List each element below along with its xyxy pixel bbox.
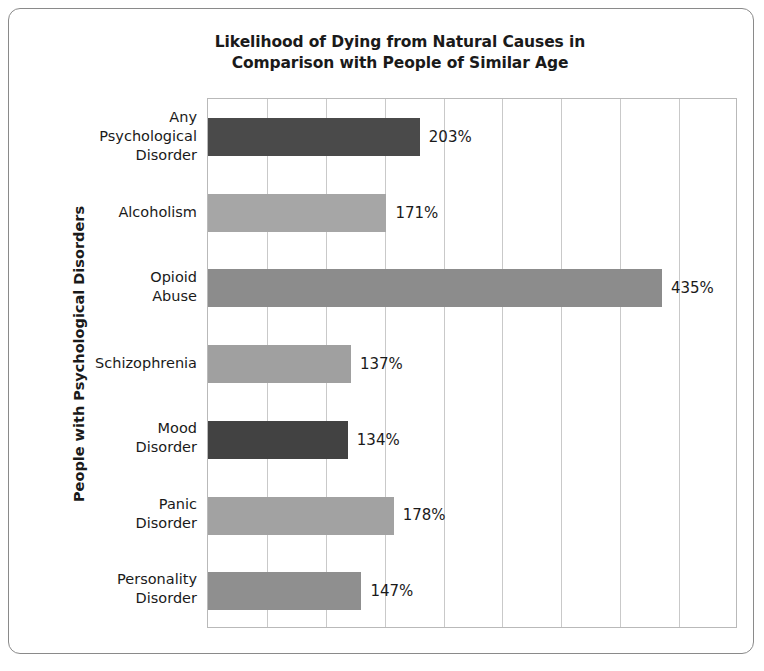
label-line: Abuse [42,287,197,306]
chart-title-line-2: Comparison with People of Similar Age [120,53,680,74]
label-line: Opioid [42,268,197,287]
y-tick-label-schizophrenia: Schizophrenia [42,354,197,373]
bar-panic-disorder [208,497,394,535]
chart-title-line-1: Likelihood of Dying from Natural Causes … [120,32,680,53]
plot-area: 203% 171% 435% 137% 134% 178% 147% [207,98,737,628]
label-line: Mood [42,419,197,438]
y-tick-label-any-psychological-disorder: Any Psychological Disorder [42,108,197,165]
y-tick-label-alcoholism: Alcoholism [42,203,197,222]
label-line: Disorder [42,589,197,608]
label-line: Any [42,108,197,127]
bar-row: 137% [208,326,736,402]
label-line: Alcoholism [42,203,197,222]
bar-row: 203% [208,99,736,175]
bar-value-mood-disorder: 134% [348,431,400,449]
y-tick-label-mood-disorder: Mood Disorder [42,419,197,457]
label-line: Disorder [42,145,197,164]
bar-value-schizophrenia: 137% [351,355,403,373]
label-line: Panic [42,495,197,514]
label-line: Schizophrenia [42,354,197,373]
y-tick-label-personality-disorder: Personality Disorder [42,570,197,608]
bar-row: 178% [208,478,736,554]
bar-opioid-abuse [208,269,662,307]
bar-value-opioid-abuse: 435% [662,279,714,297]
bar-any-psychological-disorder [208,118,420,156]
bar-row: 171% [208,175,736,251]
bar-row: 147% [208,553,736,629]
bar-schizophrenia [208,345,351,383]
chart-title: Likelihood of Dying from Natural Causes … [120,32,680,73]
bar-personality-disorder [208,572,361,610]
bar-row: 134% [208,402,736,478]
y-tick-label-opioid-abuse: Opioid Abuse [42,268,197,306]
y-tick-label-panic-disorder: Panic Disorder [42,495,197,533]
bar-value-panic-disorder: 178% [394,506,446,524]
chart-figure: Likelihood of Dying from Natural Causes … [0,0,764,671]
bar-value-any-psychological-disorder: 203% [420,128,472,146]
label-line: Disorder [42,438,197,457]
bar-mood-disorder [208,421,348,459]
bar-alcoholism [208,194,386,232]
label-line: Disorder [42,514,197,533]
label-line: Personality [42,570,197,589]
bar-value-alcoholism: 171% [386,204,438,222]
label-line: Psychological [42,127,197,146]
bar-value-personality-disorder: 147% [361,582,413,600]
bar-row: 435% [208,250,736,326]
